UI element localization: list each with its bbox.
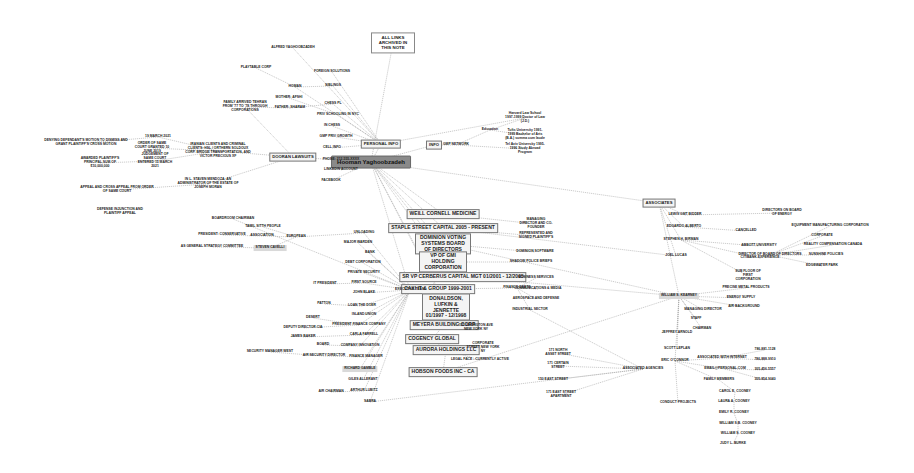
- mind-map-node[interactable]: SR VP CERBERUS CAPITAL MGT 01/2001 - 12/…: [399, 272, 526, 282]
- mind-map-node[interactable]: BANK: [365, 251, 375, 255]
- mind-map-node[interactable]: PATTON: [317, 302, 330, 306]
- mind-map-node[interactable]: 150 EAST STREET: [536, 378, 570, 382]
- mind-map-node[interactable]: COGENCY GLOBAL: [405, 334, 459, 344]
- mind-map-node[interactable]: PRIVATE SECURITY: [348, 271, 380, 275]
- mind-map-node[interactable]: DIRECTOR OF BOARD OF DIRECTORS: [738, 253, 801, 257]
- mind-map-node[interactable]: IRANIAN CLIENTS AND CRIMINAL CLIENTS: HS…: [183, 143, 253, 159]
- mind-map-node[interactable]: PERSONAL INFO: [361, 140, 401, 149]
- mind-map-node[interactable]: JEFFREY ARNOLD: [662, 331, 693, 335]
- mind-map-node[interactable]: EMILY R. COONEY: [719, 411, 749, 415]
- mind-map-node[interactable]: INDUSTRIAL SECTOR: [512, 308, 547, 312]
- mind-map-node[interactable]: STEPHEN H. BIRMAN: [664, 238, 699, 242]
- mind-map-node[interactable]: DONALDSON, LUFKIN & JENRETTE 01/1997 - 1…: [422, 294, 470, 321]
- mind-map-node[interactable]: LAURA A. COONEY: [718, 400, 750, 404]
- mind-map-node[interactable]: SUB FLOOR OF FIRST CORPORATION: [731, 270, 765, 282]
- mind-map-node[interactable]: FAMILY MEMBERS: [704, 378, 734, 382]
- mind-map-node[interactable]: AWARDED PLAINTIFF'S PRINCIPAL SUM OF $10…: [80, 157, 120, 169]
- mind-map-node[interactable]: SIBLINGS: [325, 84, 341, 88]
- mind-map-node[interactable]: FATHER: SHARAM: [275, 106, 305, 110]
- mind-map-node[interactable]: 125 LEXINGTON AVE NEW YORK NY: [459, 324, 493, 332]
- mind-map-node[interactable]: BOARDROOM CHAIRMAN: [212, 217, 254, 221]
- mind-map-node[interactable]: 171 EAST STREET APARTMENT: [541, 391, 581, 399]
- mind-map-node[interactable]: SUNSHINE POLICIES: [809, 253, 843, 257]
- mind-map-node[interactable]: PRIV SCHOOLING IN NYC: [317, 113, 359, 117]
- mind-map-node[interactable]: FAMILY ARRIVED TEHRAN FROM '77 TO '78 TH…: [221, 101, 269, 113]
- mind-map-node[interactable]: SHADOW POLICE BRIEFS: [510, 260, 552, 264]
- mind-map-node[interactable]: JAMES BAKER: [291, 335, 316, 339]
- mind-map-node[interactable]: MANAGING DIRECTOR: [684, 308, 721, 312]
- mind-map-node[interactable]: DEBT CORPORATION: [345, 261, 380, 265]
- mind-map-node[interactable]: DEPUTY DIRECTOR CIA: [283, 326, 322, 330]
- mind-map-node[interactable]: CORPORATE: [811, 234, 832, 238]
- mind-map-node[interactable]: ERIC O'CONNOR: [661, 359, 689, 363]
- mind-map-node[interactable]: COMPANY INNOVATION: [341, 344, 380, 348]
- mind-map-node[interactable]: Education: [482, 128, 498, 132]
- mind-map-node[interactable]: EDGEWATER PARK: [806, 264, 838, 268]
- mind-map-node[interactable]: STAPLE STREET CAPITAL 2005 - PRESENT: [388, 223, 498, 233]
- mind-map-node[interactable]: DIRECTORS ON BOARD OF ENERGY: [762, 209, 802, 217]
- mind-map-node[interactable]: STEVEN CAVELLI: [254, 245, 287, 251]
- mind-map-node[interactable]: AS GENERAL STRATEGY COMMITTEE: [181, 245, 244, 249]
- mind-map-node[interactable]: IN L. STAVEN MENDOZA, AN ADMINISTRATOR O…: [171, 178, 246, 190]
- mind-map-node[interactable]: IN CHESS: [324, 124, 340, 128]
- mind-map-node[interactable]: MANAGING DIRECTOR AND CO-FOUNDER: [519, 218, 554, 230]
- mind-map-node[interactable]: CHAIRMAN: [693, 327, 711, 331]
- mind-map-node[interactable]: AIR BACKGROUND: [728, 305, 760, 309]
- mind-map-node[interactable]: AEROSPACE AND DEFENSE: [513, 297, 559, 301]
- mind-map-node[interactable]: BOARD: [317, 343, 329, 347]
- mind-map-node[interactable]: 171 NORTH ASSET STREET: [543, 349, 573, 357]
- mind-map-node[interactable]: JUDY L. BURKE: [720, 442, 746, 446]
- mind-map-node[interactable]: SABRA: [364, 400, 376, 404]
- mind-map-node[interactable]: 305-854-9040: [754, 378, 775, 382]
- mind-map-node[interactable]: ISLAND UNION: [352, 313, 377, 317]
- mind-map-node[interactable]: STAFF: [691, 317, 702, 321]
- mind-map-node[interactable]: FINANCE MANAGER: [349, 355, 383, 359]
- mind-map-node[interactable]: PRESIDENT FINANCE COMPANY: [332, 323, 385, 327]
- mind-map-node[interactable]: ASSOCIATES: [643, 199, 676, 208]
- mind-map-node[interactable]: SCOTT LEPLAN: [664, 347, 690, 351]
- mind-map-node[interactable]: WILLIAM S. KEARNEY: [659, 293, 699, 299]
- mind-map-node[interactable]: ARTHUR LUBITZ: [350, 389, 377, 393]
- mind-map-node[interactable]: PRECISE METAL PRODUCTS: [722, 286, 769, 290]
- mind-map-node[interactable]: SECURITY MANAGER WEST: [247, 350, 293, 354]
- mind-map-node[interactable]: CANCELLED: [736, 229, 757, 233]
- mind-map-node[interactable]: EMAIL@PERSONAL.COM: [704, 367, 746, 371]
- mind-map-node[interactable]: LEGAL FACE - CURRENTLY ACTIVE: [451, 358, 509, 362]
- mind-map-node[interactable]: TAMIL SITTH PEOPLE: [245, 225, 280, 229]
- mind-map-node[interactable]: Tufts University 1991-1995 Bachelor of A…: [505, 129, 545, 141]
- mind-map-node[interactable]: PLAYTABLE CORP: [241, 66, 272, 70]
- mind-map-node[interactable]: CHESS PL: [325, 102, 342, 106]
- mind-map-node[interactable]: JUDGEMENT OF SAME COURT ENTERED 15 MARCH…: [138, 153, 173, 169]
- mind-map-node[interactable]: AIR SECURITY DIRECTOR: [303, 354, 345, 358]
- mind-map-node[interactable]: ABBOTT UNIVERSITY: [741, 244, 776, 248]
- mind-map-node[interactable]: CARLA FARRELL: [350, 333, 378, 337]
- mind-map-node[interactable]: 786-888-9910: [754, 358, 775, 362]
- mind-map-node[interactable]: REPRESENTED AND SIGNED PLAINTIFF'S: [517, 232, 555, 240]
- mind-map-node[interactable]: MAJOR WARDEN: [344, 241, 372, 245]
- mind-map-node[interactable]: FOREIGN SOLUTIONS: [314, 70, 350, 74]
- mind-map-node[interactable]: REALITY COMPENSATION CANADA: [804, 243, 862, 247]
- mind-map-node[interactable]: CONDUCT PROJECTS: [660, 401, 696, 405]
- mind-map-node[interactable]: EQUIPMENT MANUFACTURING CORPORATION: [791, 224, 868, 228]
- mind-map-node[interactable]: BUSINESS SERVICES: [518, 276, 553, 280]
- mind-map-node[interactable]: ASSOCIATED AGENCIES: [623, 367, 664, 371]
- mind-map-node[interactable]: ALFRED YAGHOOBZADEH: [271, 46, 315, 50]
- archive-note[interactable]: ALL LINKS ARCHIVED IN THIS NOTE: [371, 32, 415, 53]
- mind-map-node[interactable]: LOAN THE DOER: [348, 304, 376, 308]
- mind-map-node[interactable]: 786-881-1128: [755, 348, 776, 352]
- mind-map-node[interactable]: RICHARD GAMBLE: [342, 366, 377, 372]
- mind-map-node[interactable]: EDGARDO ALBERTO: [667, 225, 701, 229]
- mind-map-node[interactable]: EUROPEAN: [286, 235, 305, 239]
- mind-map-node[interactable]: DESERT: [306, 316, 320, 320]
- mind-map-node[interactable]: IT PRESIDENT: [313, 282, 336, 286]
- mind-map-node[interactable]: DOMINION SOFTWARE: [516, 250, 553, 254]
- mind-map-node[interactable]: GMP PRIV GROWTH: [320, 135, 353, 139]
- mind-map-node[interactable]: Harvard Law School 1997-1999 Doctor of L…: [505, 112, 545, 124]
- mind-map-node[interactable]: PHONE: 212-555-XXXX: [323, 158, 360, 162]
- mind-map-node[interactable]: UNLOADING: [354, 231, 375, 235]
- mind-map-node[interactable]: EXECUTIVE TEAM: [395, 288, 425, 292]
- mind-map-node[interactable]: CAROL E. COONEY: [719, 390, 751, 394]
- mind-map-node[interactable]: CORPORATE STREET NEW YORK NY: [466, 342, 500, 354]
- mind-map-node[interactable]: FACEBOOK: [321, 179, 340, 183]
- mind-map-node[interactable]: CELL INFO: [323, 146, 341, 150]
